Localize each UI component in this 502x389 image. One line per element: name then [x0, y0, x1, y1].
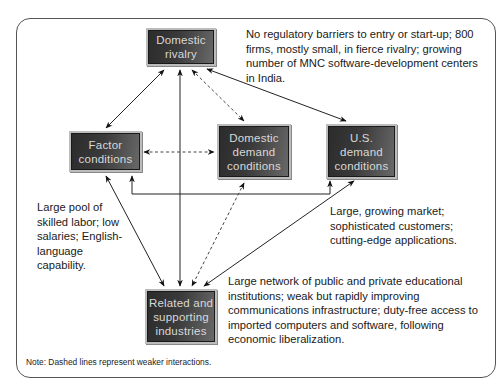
- node-domestic-demand-conditions: Domestic demand conditions: [217, 124, 291, 179]
- node-label: Domestic demand conditions: [222, 131, 286, 173]
- node-domestic-rivalry: Domestic rivalry: [146, 28, 216, 66]
- node-label: Related and supporting industries: [148, 296, 214, 338]
- node-label: Factor conditions: [75, 138, 137, 166]
- footnote: Note: Dashed lines represent weaker inte…: [26, 357, 211, 367]
- note-rivalry: No regulatory barriers to entry or start…: [246, 27, 486, 85]
- edge-rivalry-factor: [106, 70, 164, 128]
- note-related: Large network of public and private educ…: [228, 274, 478, 347]
- node-us-demand-conditions: U.S. demand conditions: [326, 124, 397, 179]
- node-label: Domestic rivalry: [153, 33, 209, 61]
- node-label: U.S. demand conditions: [333, 131, 391, 173]
- edge-rivalry-domdemand: [192, 70, 244, 121]
- node-related-supporting-industries: Related and supporting industries: [145, 289, 217, 344]
- note-us-demand: Large, growing market; sophisticated cus…: [330, 204, 458, 248]
- note-factor: Large pool of skilled labor; low salarie…: [37, 200, 125, 273]
- edge-domdemand-related: [192, 183, 244, 286]
- node-factor-conditions: Factor conditions: [69, 131, 142, 172]
